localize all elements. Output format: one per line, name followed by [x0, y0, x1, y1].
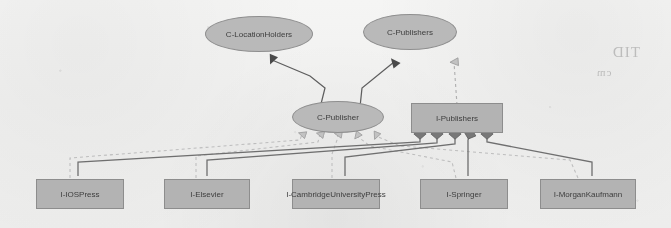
class-label-c-publisher: C-Publisher	[317, 113, 359, 122]
class-node-c-publisher[interactable]: C-Publisher	[292, 101, 384, 133]
instance-label-i-cambridgeuniversitypress: I-CambridgeUniversityPress	[286, 190, 386, 199]
instance-node-i-iospress[interactable]: I-IOSPress	[36, 179, 124, 209]
class-node-c-publishers[interactable]: C-Publishers	[363, 14, 457, 50]
instance-of-edges	[70, 134, 578, 178]
class-node-c-locationholders[interactable]: C-LocationHolders	[205, 16, 313, 52]
diagram-canvas: TID cm	[0, 0, 671, 228]
instance-node-i-springer[interactable]: I-Springer	[420, 179, 508, 209]
collection-node-i-publishers[interactable]: I-Publishers	[411, 103, 503, 133]
instance-of-edge-publishers	[454, 62, 457, 105]
collection-label-i-publishers: I-Publishers	[436, 114, 478, 123]
instance-node-i-elsevier[interactable]: I-Elsevier	[164, 179, 250, 209]
instance-label-i-elsevier: I-Elsevier	[190, 190, 223, 199]
class-label-c-publishers: C-Publishers	[387, 28, 433, 37]
instance-node-i-morgankaufmann[interactable]: I-MorganKaufmann	[540, 179, 636, 209]
membership-edges	[78, 134, 592, 176]
instance-label-i-springer: I-Springer	[446, 190, 481, 199]
class-label-c-locationholders: C-LocationHolders	[226, 30, 292, 39]
instance-node-i-cambridgeuniversitypress[interactable]: I-CambridgeUniversityPress	[292, 179, 380, 209]
instance-label-i-morgankaufmann: I-MorganKaufmann	[554, 190, 622, 199]
instance-label-i-iospress: I-IOSPress	[60, 190, 99, 199]
